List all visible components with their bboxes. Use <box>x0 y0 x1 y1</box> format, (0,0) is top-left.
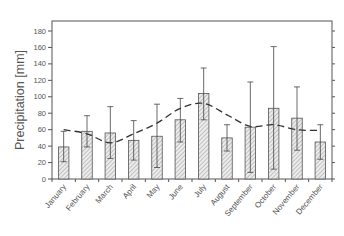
x-tick-label-august: August <box>209 182 232 207</box>
y-tick-label: 160 <box>33 43 46 52</box>
y-axis-label: Precipitation [mm] <box>13 50 27 150</box>
y-tick-label: 100 <box>33 92 46 101</box>
x-tick-label-february: February <box>64 183 91 213</box>
mean-line-path <box>64 103 321 143</box>
x-tick-label-june: June <box>167 182 185 201</box>
plot-frame <box>52 21 332 179</box>
x-tick-label-july: July <box>192 183 208 200</box>
bars <box>58 93 325 179</box>
y-tick-label: 80 <box>38 109 46 118</box>
y-tick-label: 0 <box>42 175 46 184</box>
plot-border <box>52 21 332 179</box>
y-tick-label: 40 <box>38 142 46 151</box>
chart-canvas: 020406080100120140160180 JanuaryFebruary… <box>0 0 344 236</box>
y-tick-label: 120 <box>33 76 46 85</box>
x-tick-label-march: March <box>94 183 115 206</box>
x-tick-label-april: April <box>121 182 138 200</box>
mean-dashed-line <box>64 103 321 143</box>
y-tick-label: 20 <box>38 158 46 167</box>
x-axis: JanuaryFebruaryMarchAprilMayJuneJulyAugu… <box>43 179 332 218</box>
precipitation-chart: 020406080100120140160180 JanuaryFebruary… <box>0 0 344 236</box>
y-tick-label: 180 <box>33 27 46 36</box>
y-tick-label: 60 <box>38 125 46 134</box>
x-tick-label-may: May <box>145 183 162 200</box>
error-bars <box>61 47 324 173</box>
y-tick-label: 140 <box>33 59 46 68</box>
